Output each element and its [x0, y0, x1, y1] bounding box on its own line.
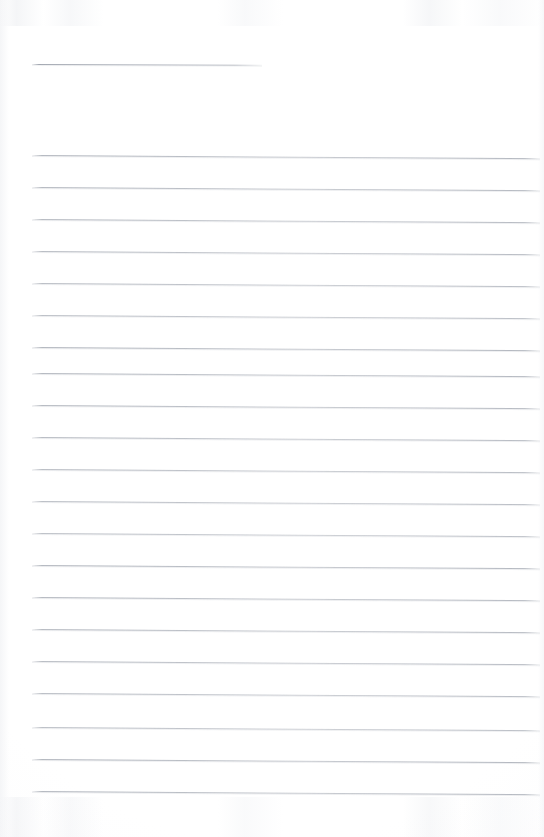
ruled-line — [32, 629, 540, 633]
ruled-line — [32, 693, 540, 697]
ruled-line — [32, 251, 540, 255]
ruled-line — [32, 727, 540, 731]
ruled-line — [32, 347, 540, 351]
ruled-line — [32, 661, 540, 665]
ruled-line — [32, 437, 540, 441]
ruled-line — [32, 759, 540, 763]
header-rule-line — [32, 64, 262, 66]
ruled-line — [32, 155, 540, 159]
ruled-line — [32, 315, 540, 319]
scan-noise-bottom — [0, 797, 544, 837]
ruled-line — [32, 501, 540, 505]
scan-edge-right — [538, 0, 544, 837]
scan-edge-left — [0, 0, 9, 837]
ruled-line — [32, 283, 540, 287]
ruled-line — [32, 791, 540, 795]
ruled-line — [32, 469, 540, 473]
scan-noise-top — [0, 0, 544, 26]
ruled-line — [32, 187, 540, 191]
ruled-line — [32, 597, 540, 601]
ruled-line — [32, 533, 540, 537]
ruled-line — [32, 565, 540, 569]
ruled-line — [32, 373, 540, 377]
paper-surface — [0, 0, 544, 837]
ruled-line — [32, 405, 540, 409]
scanned-page — [0, 0, 544, 837]
ruled-line — [32, 219, 540, 223]
